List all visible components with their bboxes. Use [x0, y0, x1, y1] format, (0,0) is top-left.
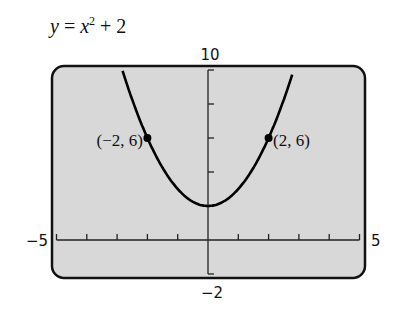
xmin-label: −5 [26, 232, 48, 250]
ymin-label: −2 [201, 284, 223, 302]
point-label-left: (−2, 6) [97, 131, 143, 150]
data-point [143, 134, 151, 142]
ymax-label: 10 [200, 46, 219, 64]
data-point [265, 134, 273, 142]
xmax-label: 5 [371, 232, 381, 250]
point-label-right: (2, 6) [273, 131, 310, 150]
graph: 10 −2 −5 5 (−2, 6) (2, 6) [0, 0, 400, 312]
